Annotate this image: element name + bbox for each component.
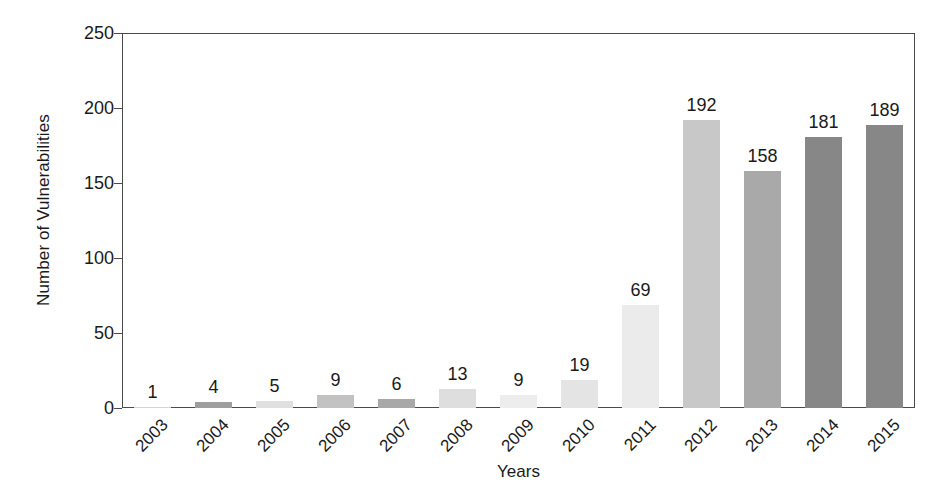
y-axis-tick-mark <box>114 333 122 334</box>
bar[interactable] <box>683 120 720 408</box>
bar-group: 6 <box>378 33 415 408</box>
bar-group: 5 <box>256 33 293 408</box>
x-axis-tick-label: 2013 <box>737 416 780 459</box>
bar[interactable] <box>561 380 598 409</box>
bar-value-label: 19 <box>569 356 589 374</box>
bar[interactable] <box>439 389 476 409</box>
bar-group: 13 <box>439 33 476 408</box>
y-axis-tick-labels: 050100150200250 <box>62 0 114 501</box>
x-axis-tick-label: 2003 <box>127 416 170 459</box>
bar[interactable] <box>378 399 415 408</box>
y-axis-tick-label: 0 <box>68 399 114 417</box>
bar-group: 192 <box>683 33 720 408</box>
bar-group: 4 <box>195 33 232 408</box>
bar-group: 181 <box>805 33 842 408</box>
bar-group: 1 <box>134 33 171 408</box>
bar-value-label: 158 <box>747 147 777 165</box>
bar-value-label: 13 <box>447 365 467 383</box>
x-axis-tick-label: 2010 <box>554 416 597 459</box>
bar[interactable] <box>256 401 293 409</box>
bar-value-label: 189 <box>869 101 899 119</box>
bar-group: 9 <box>317 33 354 408</box>
bar-value-label: 192 <box>686 96 716 114</box>
x-axis-tick-label: 2015 <box>859 416 902 459</box>
bars-layer: 145961391969192158181189 <box>122 33 915 408</box>
y-axis-tick-mark <box>114 408 122 409</box>
y-axis-tick-mark <box>114 258 122 259</box>
y-axis-tick-label: 150 <box>68 174 114 192</box>
bar-group: 158 <box>744 33 781 408</box>
x-axis-tick-label: 2012 <box>676 416 719 459</box>
y-axis-tick-label: 200 <box>68 99 114 117</box>
bar[interactable] <box>805 137 842 409</box>
bar-value-label: 69 <box>630 281 650 299</box>
bar-group: 9 <box>500 33 537 408</box>
bar[interactable] <box>866 125 903 409</box>
bar-group: 19 <box>561 33 598 408</box>
y-axis-title: Number of Vulnerabilities <box>24 0 64 420</box>
bar-group: 69 <box>622 33 659 408</box>
bar[interactable] <box>744 171 781 408</box>
bar-value-label: 4 <box>208 378 218 396</box>
bar-value-label: 9 <box>513 371 523 389</box>
x-axis-title: Years <box>122 462 915 482</box>
vulnerabilities-bar-chart: Number of Vulnerabilities 05010015020025… <box>0 0 945 501</box>
x-axis-tick-labels: 2003200420052006200720082009201020112012… <box>122 408 915 468</box>
y-axis-tick-label: 250 <box>68 24 114 42</box>
bar[interactable] <box>622 305 659 409</box>
y-axis-tick-label: 50 <box>68 324 114 342</box>
x-axis-tick-label: 2004 <box>188 416 231 459</box>
x-axis-tick-label: 2007 <box>371 416 414 459</box>
bar-value-label: 6 <box>391 375 401 393</box>
x-axis-tick-label: 2005 <box>249 416 292 459</box>
bar-group: 189 <box>866 33 903 408</box>
x-axis-tick-label: 2011 <box>615 416 658 459</box>
bar-value-label: 9 <box>330 371 340 389</box>
bar[interactable] <box>500 395 537 409</box>
x-axis-tick-label: 2014 <box>798 416 841 459</box>
bar-value-label: 181 <box>808 113 838 131</box>
bar-value-label: 1 <box>147 383 157 401</box>
x-axis-tick-label: 2006 <box>310 416 353 459</box>
x-axis-tick-label: 2009 <box>493 416 536 459</box>
x-axis-tick-label: 2008 <box>432 416 475 459</box>
y-axis-tick-label: 100 <box>68 249 114 267</box>
bar-value-label: 5 <box>269 377 279 395</box>
bar[interactable] <box>317 395 354 409</box>
y-axis-tick-mark <box>114 33 122 34</box>
y-axis-tick-mark <box>114 108 122 109</box>
y-axis-tick-mark <box>114 183 122 184</box>
